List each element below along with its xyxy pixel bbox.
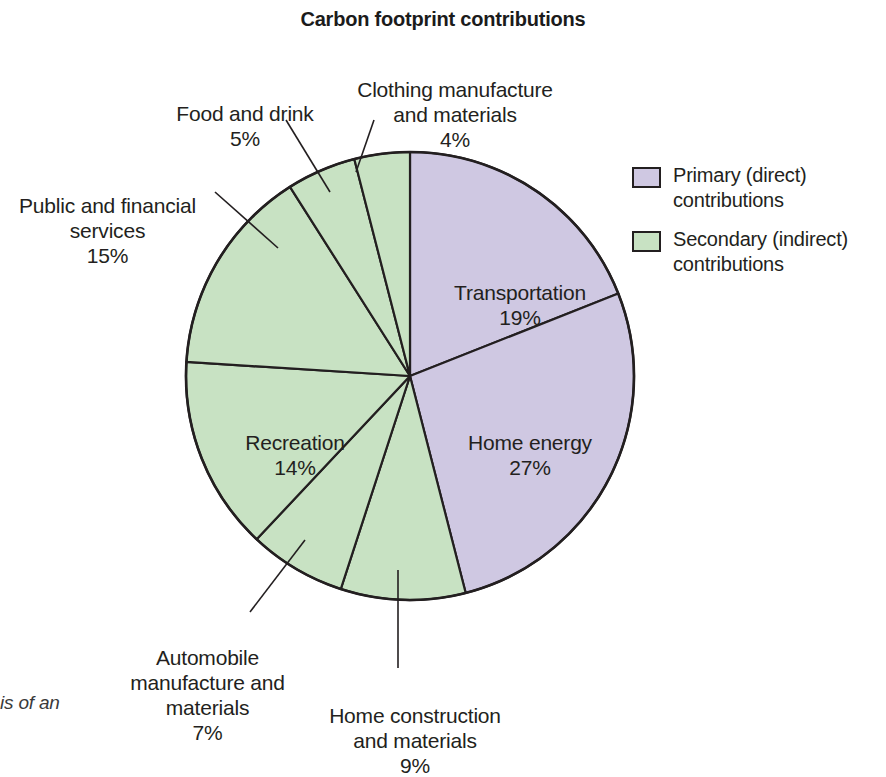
slice-label-public-and-financial-services: Public and financial services 15%: [0, 168, 215, 293]
slice-label-clothing-text: Clothing manufacture and materials: [357, 78, 553, 126]
slice-label-home-energy-text: Home energy: [468, 431, 592, 454]
slice-label-public-and-financial-services-text: Public and financial services: [19, 194, 196, 242]
slice-label-public-and-financial-services-pct: 15%: [0, 243, 215, 268]
legend-item-secondary-indirect: Secondary (indirect) contributions: [632, 227, 882, 277]
slice-label-home-construction-pct: 9%: [285, 753, 545, 777]
legend-swatch-secondary-indirect: [632, 231, 661, 252]
slice-label-home-energy: Home energy 27%: [445, 405, 615, 505]
legend-swatch-primary-direct: [632, 167, 661, 188]
slice-label-food-and-drink: Food and drink 5%: [150, 76, 340, 176]
slice-label-recreation: Recreation 14%: [215, 405, 375, 505]
slice-label-clothing: Clothing manufacture and materials 4%: [330, 52, 580, 177]
slice-label-recreation-pct: 14%: [215, 455, 375, 480]
slice-label-transportation: Transportation 19%: [425, 255, 615, 355]
chart-legend: Primary (direct) contributions Secondary…: [632, 163, 882, 291]
legend-label-secondary-indirect: Secondary (indirect) contributions: [673, 227, 848, 277]
slice-label-home-construction-text: Home construction and materials: [329, 704, 501, 752]
slice-label-home-construction: Home construction and materials 9%: [285, 678, 545, 777]
caption-fragment: is of an: [0, 692, 60, 714]
slice-label-automobile-manufacture-text: Automobile manufacture and materials: [130, 646, 285, 719]
slice-label-transportation-text: Transportation: [454, 281, 586, 304]
slice-label-home-energy-pct: 27%: [445, 455, 615, 480]
slice-label-recreation-text: Recreation: [245, 431, 345, 454]
slice-label-food-and-drink-text: Food and drink: [176, 102, 313, 125]
legend-label-primary-direct: Primary (direct) contributions: [673, 163, 806, 213]
legend-item-primary-direct: Primary (direct) contributions: [632, 163, 882, 213]
pie-slices: [186, 152, 634, 600]
slice-label-food-and-drink-pct: 5%: [150, 126, 340, 151]
slice-label-transportation-pct: 19%: [425, 305, 615, 330]
slice-label-clothing-pct: 4%: [330, 127, 580, 152]
